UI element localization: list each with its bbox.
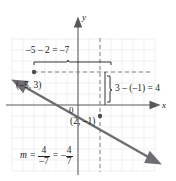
slope-fraction-2-numerator: 4 (66, 146, 73, 156)
run-annotation: –5 – 2 = –7 (26, 46, 69, 56)
point-label-lower-right: (2, –1) (70, 117, 95, 127)
slope-equals-2: = (50, 150, 61, 160)
point-minus5-3 (32, 70, 36, 74)
line-arrow-lower-right (146, 153, 159, 163)
slope-fraction-1-numerator: 4 (38, 146, 50, 156)
slope-fraction-2: 47 (66, 146, 73, 166)
x-axis-arrowhead (150, 102, 159, 109)
origin-label: 0 (69, 106, 74, 115)
slope-formula: m=4–7=–47 (20, 146, 73, 166)
slope-fraction-1: 4–7 (38, 146, 50, 166)
y-axis-label: y (82, 13, 86, 22)
slope-variable: m (20, 150, 27, 160)
slope-figure: y x 0 –5 – 2 = –7 3 – (–1) = 4 (–5, 3) (… (0, 0, 176, 181)
point-label-upper-left: (–5, 3) (16, 81, 41, 91)
point-2-minus1 (98, 114, 102, 118)
rise-annotation: 3 – (–1) = 4 (115, 84, 160, 94)
slope-equals-1: = (27, 150, 38, 160)
slope-fraction-2-denominator: 7 (66, 156, 73, 167)
x-axis-label: x (162, 101, 166, 110)
slope-fraction-1-denominator: –7 (38, 156, 50, 167)
y-axis-arrowhead (75, 18, 82, 27)
